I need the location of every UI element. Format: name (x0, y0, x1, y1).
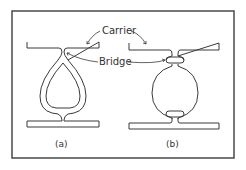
carrier-strip-b-bottom (129, 118, 219, 129)
diagram-canvas: Carrier Bridge (a) (b) (0, 0, 246, 170)
diagram-b (129, 43, 219, 129)
caption-b: (b) (166, 139, 179, 149)
teardrop-outer-a (27, 60, 99, 127)
bridge-oval-bottom (166, 111, 184, 117)
carrier-strip-a-top (27, 42, 99, 60)
carrier-strip-b-top (129, 43, 219, 56)
carrier-label: Carrier (102, 25, 137, 36)
teardrop-inner-a (46, 63, 80, 108)
bridge-oval-top (166, 57, 184, 63)
diagram-a (27, 42, 99, 127)
caption-a: (a) (55, 139, 68, 149)
bridge-label: Bridge (99, 56, 132, 67)
bridge-leader-b (128, 60, 165, 63)
